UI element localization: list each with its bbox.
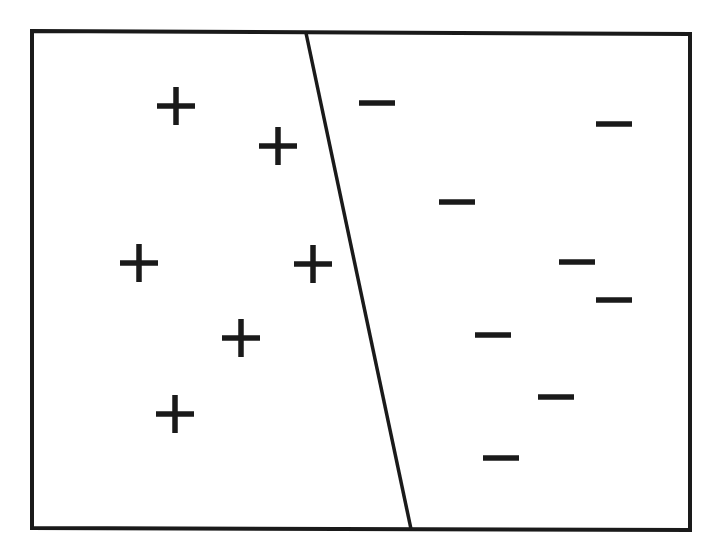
diagram-canvas	[0, 0, 714, 558]
frame-border	[32, 31, 690, 530]
plot-frame	[32, 31, 690, 530]
classification-diagram	[0, 0, 714, 558]
